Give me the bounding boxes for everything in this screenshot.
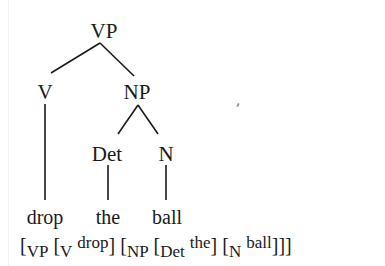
label-np: NP <box>127 242 149 261</box>
label-vp: VP <box>27 242 49 261</box>
open-bracket-vp: [ <box>20 234 27 256</box>
word-drop: drop <box>77 233 108 252</box>
open-bracket-np: [ <box>120 234 127 256</box>
word-ball: ball <box>246 233 272 252</box>
node-v: V <box>37 82 52 103</box>
edge-vp-np <box>100 43 134 76</box>
label-n: N <box>229 242 241 261</box>
bracketed-notation: [VP [V drop] [NP [Det the] [N ball]]] <box>20 234 292 260</box>
edge-np-n <box>138 105 158 134</box>
node-np: NP <box>124 82 151 103</box>
edge-vp-v <box>51 43 100 73</box>
open-bracket-n: [ <box>222 234 229 256</box>
label-v: V <box>60 242 72 261</box>
leaf-the: the <box>96 207 120 227</box>
node-vp: VP <box>91 21 118 42</box>
leaf-drop: drop <box>27 207 64 227</box>
edge-np-det <box>118 105 138 134</box>
node-det: Det <box>92 144 122 165</box>
close-brackets-final: ]]] <box>272 234 292 256</box>
close-bracket-det: ] <box>211 234 218 256</box>
leaf-ball: ball <box>152 207 182 227</box>
label-det: Det <box>160 242 185 261</box>
word-the: the <box>190 233 211 252</box>
close-bracket-v: ] <box>109 234 116 256</box>
node-n: N <box>158 144 173 165</box>
